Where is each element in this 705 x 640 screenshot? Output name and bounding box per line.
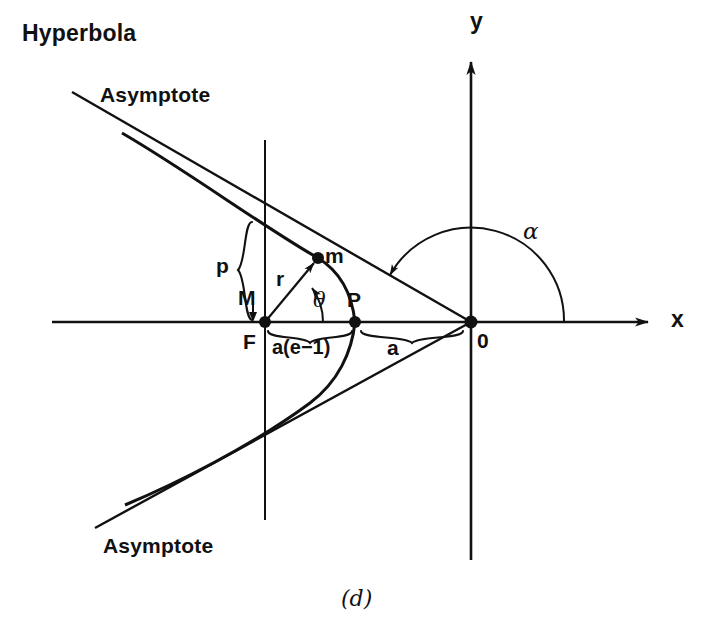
asymptote-upper-line bbox=[72, 92, 471, 322]
vertex-label: P bbox=[347, 289, 361, 310]
radius-label: r bbox=[276, 268, 284, 289]
focus-label: F bbox=[243, 331, 256, 352]
brace-a bbox=[361, 331, 463, 343]
directrix-foot-label: M bbox=[238, 287, 256, 308]
theta-angle-label: θ bbox=[313, 290, 326, 311]
point-F bbox=[259, 316, 271, 328]
alpha-angle-label: α bbox=[523, 220, 539, 243]
point-m bbox=[312, 252, 324, 264]
origin-label: 0 bbox=[477, 330, 489, 351]
figure-title: Hyperbola bbox=[22, 22, 136, 45]
moving-point-label: m bbox=[325, 245, 344, 266]
y-axis-label: y bbox=[470, 10, 483, 33]
x-axis-label: x bbox=[671, 308, 684, 331]
point-O bbox=[465, 316, 478, 329]
figure-caption: (d) bbox=[341, 588, 372, 610]
asymptote-label-bottom: Asymptote bbox=[103, 535, 213, 556]
focus-to-vertex-label: a(e−1) bbox=[272, 337, 330, 357]
semi-latus-rectum-label: p bbox=[216, 255, 229, 276]
radius-vector-r bbox=[265, 263, 314, 322]
vertex-to-origin-label: a bbox=[387, 337, 399, 358]
asymptote-label-top: Asymptote bbox=[100, 84, 210, 105]
hyperbola-figure: Hyperbola Asymptote Asymptote y x 0 p M … bbox=[0, 0, 705, 640]
point-P bbox=[349, 316, 361, 328]
